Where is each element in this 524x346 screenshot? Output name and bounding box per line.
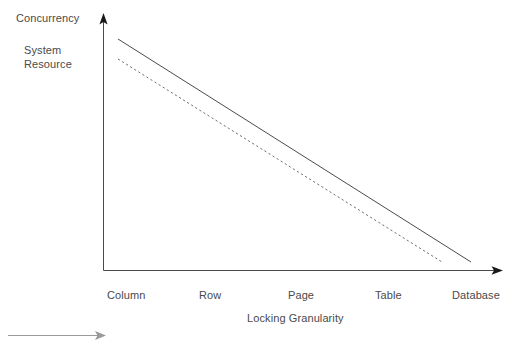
x-axis xyxy=(104,266,504,275)
x-tick-label-table: Table xyxy=(375,289,402,302)
y-axis-label-line-2: System xyxy=(24,44,61,57)
chart-canvas xyxy=(0,0,524,346)
x-tick-label-page: Page xyxy=(288,289,314,302)
y-axis xyxy=(99,13,107,271)
y-axis-label-line-1: Concurrency xyxy=(16,12,79,25)
series-line-concurrency xyxy=(118,39,471,262)
granularity-increase-arrow xyxy=(8,331,106,340)
series-line-system-resource xyxy=(118,59,442,262)
locking-granularity-chart: Concurrency System Resource Column Row P… xyxy=(0,0,524,346)
x-tick-label-database: Database xyxy=(452,289,500,302)
x-tick-label-row: Row xyxy=(199,289,221,302)
x-tick-label-column: Column xyxy=(107,289,146,302)
x-axis-title: Locking Granularity xyxy=(247,312,344,325)
y-axis-label-line-3: Resource xyxy=(24,58,72,71)
